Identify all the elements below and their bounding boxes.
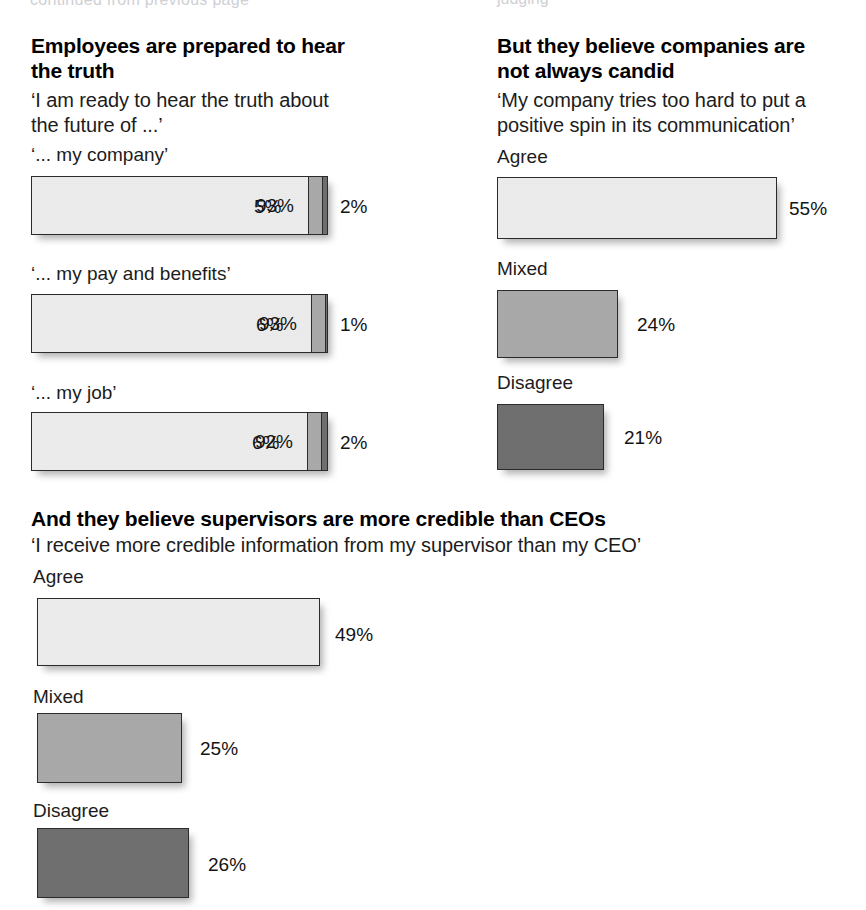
bar-value-mixed: 5% bbox=[254, 196, 281, 218]
bar-mixed-supervisor bbox=[37, 713, 182, 783]
bar-value-disagree-candid: 21% bbox=[624, 427, 662, 449]
bar-segment-disagree bbox=[321, 413, 327, 470]
bar-segment-mixed bbox=[307, 413, 321, 470]
panel-subhead-top-right: ‘My company tries too hard to put a posi… bbox=[497, 88, 842, 138]
panel-subhead-top-left: ‘I am ready to hear the truth about the … bbox=[31, 88, 361, 138]
bar-value-disagree: 2% bbox=[340, 432, 367, 454]
bar-segment-disagree bbox=[322, 177, 327, 234]
bar-value-mixed-supervisor: 25% bbox=[200, 738, 238, 760]
bar-value-disagree: 2% bbox=[340, 196, 367, 218]
category-label-mixed-candid: Mixed bbox=[497, 258, 548, 280]
category-label-disagree-candid: Disagree bbox=[497, 372, 573, 394]
bar-value-agree-candid: 55% bbox=[789, 198, 827, 220]
clipped-header-text-left: continued from previous page bbox=[30, 0, 249, 9]
bar-value-mixed: 6% bbox=[256, 314, 283, 336]
bar-value-mixed-candid: 24% bbox=[637, 314, 675, 336]
clipped-header-text-right: judging bbox=[497, 0, 549, 8]
category-label-my-pay-and-benefits: ‘... my pay and benefits’ bbox=[31, 263, 231, 285]
panel-heading-bottom: And they believe supervisors are more cr… bbox=[31, 506, 731, 531]
category-label-agree-supervisor: Agree bbox=[33, 566, 84, 588]
bar-mixed-candid bbox=[497, 290, 618, 358]
category-label-my-company: ‘... my company’ bbox=[31, 144, 168, 166]
bar-disagree-candid bbox=[497, 404, 604, 470]
category-label-disagree-supervisor: Disagree bbox=[33, 800, 109, 822]
bar-value-disagree-supervisor: 26% bbox=[208, 854, 246, 876]
bar-segment-mixed bbox=[308, 177, 322, 234]
category-label-my-job: ‘... my job’ bbox=[31, 382, 117, 404]
bar-segment-mixed bbox=[311, 295, 325, 352]
stacked-bar-my-company: 93% bbox=[31, 176, 328, 235]
bar-agree-supervisor bbox=[37, 598, 320, 666]
bar-agree-candid bbox=[497, 177, 777, 239]
panel-heading-top-left: Employees are prepared to hear the truth bbox=[31, 33, 351, 83]
bar-segment-disagree bbox=[325, 295, 327, 352]
bar-value-mixed: 6% bbox=[252, 432, 279, 454]
category-label-agree-candid: Agree bbox=[497, 146, 548, 168]
bar-value-disagree: 1% bbox=[340, 314, 367, 336]
bar-value-agree-supervisor: 49% bbox=[335, 624, 373, 646]
category-label-mixed-supervisor: Mixed bbox=[33, 686, 84, 708]
bar-disagree-supervisor bbox=[37, 828, 189, 898]
panel-heading-top-right: But they believe companies are not alway… bbox=[497, 33, 837, 83]
panel-subhead-bottom: ‘I receive more credible information fro… bbox=[31, 533, 731, 558]
stacked-bar-my-job: 92% bbox=[31, 412, 328, 471]
